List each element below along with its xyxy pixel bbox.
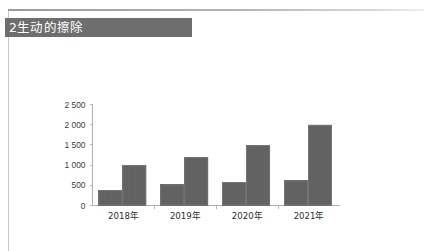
y-axis-tick-label: 2 000	[65, 120, 86, 130]
bar-fill[interactable]	[222, 182, 246, 205]
bar[interactable]	[308, 125, 332, 206]
bar-fill[interactable]	[160, 184, 184, 205]
bar-fill[interactable]	[308, 125, 332, 206]
bar[interactable]	[284, 180, 308, 205]
bar[interactable]	[122, 165, 146, 205]
bar[interactable]	[160, 184, 184, 205]
y-axis-tick-label: 2 500	[65, 100, 86, 110]
bar-fill[interactable]	[246, 145, 270, 206]
bar-chart-canvas: 05001 0001 5002 0002 5002018年2019年2020年2…	[0, 0, 424, 251]
y-axis-tick-label: 0	[81, 201, 86, 211]
x-axis-category-label: 2020年	[232, 210, 263, 221]
bar-chart[interactable]: 05001 0001 5002 0002 5002018年2019年2020年2…	[0, 0, 424, 251]
bar[interactable]	[246, 145, 270, 206]
bar-fill[interactable]	[184, 157, 208, 205]
bar[interactable]	[184, 157, 208, 205]
y-axis-tick-label: 1 000	[65, 160, 86, 170]
x-axis-category-label: 2021年	[294, 210, 325, 221]
bar[interactable]	[222, 182, 246, 205]
x-axis-category-label: 2018年	[108, 210, 139, 221]
bar[interactable]	[98, 190, 122, 205]
bar-fill[interactable]	[122, 165, 146, 205]
x-axis-category-label: 2019年	[170, 210, 201, 221]
y-axis-tick-label: 500	[72, 180, 86, 190]
bar-fill[interactable]	[284, 180, 308, 205]
bar-fill[interactable]	[98, 190, 122, 205]
y-axis-tick-label: 1 500	[65, 140, 86, 150]
document-page: 2生动的擦除 05001 0001 5002 0002 5002018年2019…	[0, 0, 424, 251]
